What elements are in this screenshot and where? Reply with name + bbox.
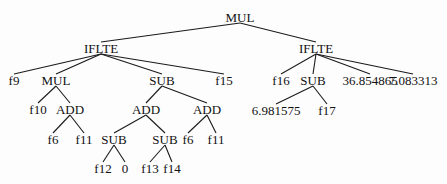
tree-edge <box>56 54 101 74</box>
tree-node: f11 <box>76 133 93 146</box>
tree-node: SUB <box>300 74 325 87</box>
tree-node: ADD <box>56 103 84 116</box>
tree-edge <box>316 54 413 74</box>
tree-edge <box>207 115 216 133</box>
tree-edge <box>165 145 172 162</box>
tree-node: IFLTE <box>84 42 118 55</box>
tree-node: ADD <box>193 103 221 116</box>
expression-tree-diagram: MULIFLTEIFLTEf9MULSUBf15f16SUB36.8548657… <box>0 0 447 184</box>
tree-edges <box>0 0 447 184</box>
tree-node: f15 <box>215 74 232 87</box>
tree-node: f10 <box>29 103 46 116</box>
tree-node: 6.981575 <box>252 104 301 117</box>
tree-edge <box>101 54 224 74</box>
tree-node: 7.083313 <box>389 74 438 87</box>
tree-edge <box>38 86 56 103</box>
tree-node: f13 <box>141 162 158 175</box>
tree-edge <box>240 23 316 42</box>
tree-edge <box>56 86 70 103</box>
tree-node: f11 <box>208 133 225 146</box>
tree-node: SUB <box>101 133 126 146</box>
tree-node: f6 <box>48 133 59 146</box>
tree-node: SUB <box>149 74 174 87</box>
tree-node: IFLTE <box>299 42 333 55</box>
tree-edge <box>281 54 316 74</box>
tree-node: f9 <box>9 74 20 87</box>
tree-edge <box>150 145 165 162</box>
tree-edge <box>101 23 240 42</box>
tree-edge <box>162 86 207 103</box>
tree-edge <box>313 86 327 104</box>
tree-edge <box>53 115 70 133</box>
tree-edge <box>14 54 101 74</box>
tree-node: f17 <box>318 104 335 117</box>
tree-edge <box>103 145 114 162</box>
tree-edge <box>313 54 316 74</box>
tree-edge <box>101 54 162 74</box>
tree-node: 0 <box>122 162 129 175</box>
tree-edge <box>146 86 162 103</box>
tree-node: f16 <box>272 74 289 87</box>
tree-edge <box>276 86 313 104</box>
tree-edge <box>114 145 125 162</box>
tree-edge <box>146 115 165 133</box>
tree-node: f14 <box>163 162 180 175</box>
tree-node: MUL <box>42 74 71 87</box>
tree-edge <box>70 115 84 133</box>
tree-node: f6 <box>183 133 194 146</box>
tree-edge <box>188 115 207 133</box>
tree-node: MUL <box>226 11 255 24</box>
tree-node: ADD <box>132 103 160 116</box>
tree-node: SUB <box>152 133 177 146</box>
tree-edge <box>114 115 146 133</box>
tree-node: f12 <box>94 162 111 175</box>
